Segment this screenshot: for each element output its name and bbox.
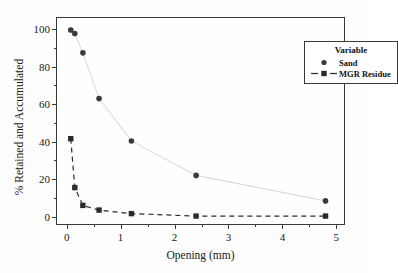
data-point [323, 198, 329, 204]
x-tick-label: 0 [64, 232, 70, 243]
y-tick-label: 80 [39, 61, 50, 72]
legend-entry-mgr-residue: MGR Residue [305, 68, 397, 79]
data-point [96, 207, 101, 212]
y-tick-label: 40 [39, 136, 50, 147]
data-point [193, 213, 198, 218]
data-point [323, 213, 328, 218]
x-tick-label: 5 [334, 232, 340, 243]
data-point [80, 203, 85, 208]
data-point [129, 138, 135, 144]
data-point [96, 96, 102, 102]
square-marker-dashed-line-icon [309, 68, 339, 79]
x-tick-label: 3 [226, 232, 232, 243]
data-point [129, 211, 134, 216]
data-point [68, 136, 73, 141]
x-tick-label: 4 [280, 232, 286, 243]
y-tick-label: 0 [45, 211, 51, 222]
data-point [72, 185, 77, 190]
legend-label-mgr-residue: MGR Residue [339, 70, 391, 79]
y-tick-label: 20 [39, 174, 50, 185]
data-series-layer [57, 18, 346, 226]
y-tick-label: 100 [34, 24, 51, 35]
legend-label-sand: Sand [339, 59, 357, 68]
x-tick-label: 1 [118, 232, 124, 243]
x-tick-label: 2 [172, 232, 178, 243]
plot-area: 020406080100 012345 Variable Sand [56, 17, 345, 225]
circle-marker-icon [309, 57, 339, 68]
legend-title: Variable [305, 45, 397, 56]
data-point [72, 31, 78, 37]
data-point [193, 173, 199, 179]
legend-entry-sand: Sand [305, 57, 397, 68]
legend: Variable Sand MGR Residue [304, 41, 398, 84]
data-point [80, 50, 86, 56]
series-line-mgr-residue [71, 139, 326, 216]
y-axis-title: % Retained and Accumulated [13, 32, 25, 222]
y-tick-label: 60 [39, 99, 50, 110]
x-axis-title: Opening (mm) [56, 249, 345, 261]
